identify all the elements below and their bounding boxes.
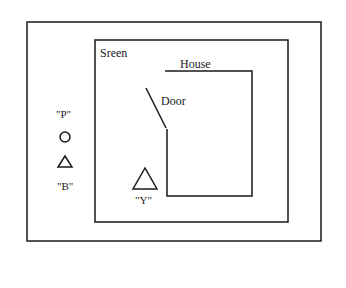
y-triangle-icon bbox=[133, 168, 157, 189]
y-label: "Y" bbox=[135, 194, 152, 206]
house-outline bbox=[165, 71, 252, 196]
b-triangle-icon bbox=[58, 156, 72, 167]
outer-frame bbox=[27, 22, 321, 241]
door-label: Door bbox=[161, 95, 186, 107]
diagram-canvas bbox=[0, 0, 346, 288]
screen-label: Sreen bbox=[100, 47, 127, 59]
p-label: "P" bbox=[56, 108, 71, 120]
p-circle-icon bbox=[60, 132, 70, 142]
house-label: House bbox=[180, 58, 211, 70]
b-label: "B" bbox=[57, 180, 73, 192]
